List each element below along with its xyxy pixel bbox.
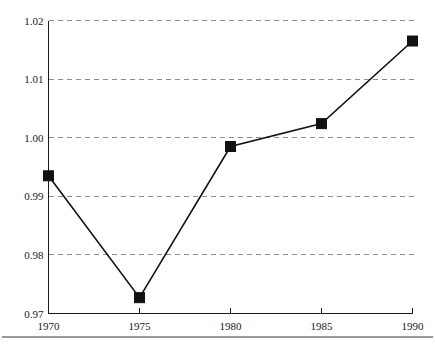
x-tick-label: 1985 bbox=[311, 320, 334, 332]
y-tick-label: 1.02 bbox=[24, 15, 43, 27]
chart-figure: 0.970.980.991.001.011.02 197019751980198… bbox=[0, 0, 435, 350]
x-tick-label: 1980 bbox=[220, 320, 243, 332]
y-axis-tick-labels: 0.970.980.991.001.011.02 bbox=[24, 15, 44, 320]
y-tick-label: 0.99 bbox=[24, 190, 44, 202]
x-tick-label: 1990 bbox=[402, 320, 425, 332]
y-tick-label: 0.97 bbox=[24, 308, 44, 320]
x-tick-label: 1970 bbox=[38, 320, 61, 332]
gridlines bbox=[49, 21, 416, 255]
y-tick-label: 1.00 bbox=[24, 132, 44, 144]
data-point bbox=[317, 119, 327, 129]
line-chart: 0.970.980.991.001.011.02 197019751980198… bbox=[0, 0, 435, 350]
x-tick-label: 1975 bbox=[129, 320, 152, 332]
y-tick-label: 1.01 bbox=[24, 73, 43, 85]
data-markers bbox=[44, 36, 418, 303]
data-point bbox=[408, 36, 418, 46]
data-point bbox=[226, 141, 236, 151]
axis-spines bbox=[49, 21, 413, 314]
x-axis-ticks bbox=[140, 308, 413, 314]
y-tick-label: 0.98 bbox=[24, 249, 44, 261]
data-point bbox=[135, 293, 145, 303]
x-axis-tick-labels: 19701975198019851990 bbox=[38, 320, 425, 332]
data-point bbox=[44, 171, 54, 181]
